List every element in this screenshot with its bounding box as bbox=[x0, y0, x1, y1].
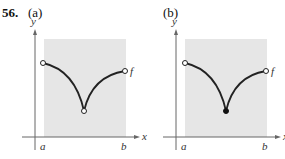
open-endpoint-right bbox=[264, 69, 269, 74]
y-axis-label: y bbox=[30, 15, 36, 27]
y-axis-label: y bbox=[171, 15, 177, 27]
open-endpoint-left bbox=[41, 61, 46, 66]
y-arrow-icon bbox=[33, 29, 37, 35]
figure: y x a b f y x a b f bbox=[0, 0, 285, 159]
x-axis-label: x bbox=[282, 130, 285, 142]
shaded-interval bbox=[185, 39, 267, 137]
x-arrow-icon bbox=[134, 135, 140, 139]
f-label: f bbox=[271, 65, 276, 77]
x-arrow-icon bbox=[275, 135, 281, 139]
a-label: a bbox=[181, 140, 187, 152]
open-cusp-point bbox=[82, 109, 87, 114]
open-endpoint-left bbox=[183, 61, 188, 66]
panel-a-graph: y x a b f bbox=[22, 15, 147, 152]
open-endpoint-right bbox=[123, 69, 128, 74]
panel-b-graph: y x a b f bbox=[163, 15, 285, 152]
shaded-interval bbox=[44, 39, 126, 137]
closed-cusp-point bbox=[224, 109, 229, 114]
b-label: b bbox=[262, 140, 268, 152]
y-arrow-icon bbox=[174, 29, 178, 35]
b-label: b bbox=[121, 140, 127, 152]
f-label: f bbox=[130, 65, 135, 77]
x-axis-label: x bbox=[141, 130, 147, 142]
a-label: a bbox=[40, 140, 46, 152]
